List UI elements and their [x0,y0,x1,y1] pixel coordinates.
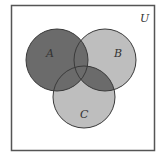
universe-label: U [140,12,150,25]
set-c-label: C [80,108,89,121]
venn-diagram: U A B C [0,0,158,156]
set-b-label: B [113,47,122,60]
set-a-label: A [45,47,54,60]
